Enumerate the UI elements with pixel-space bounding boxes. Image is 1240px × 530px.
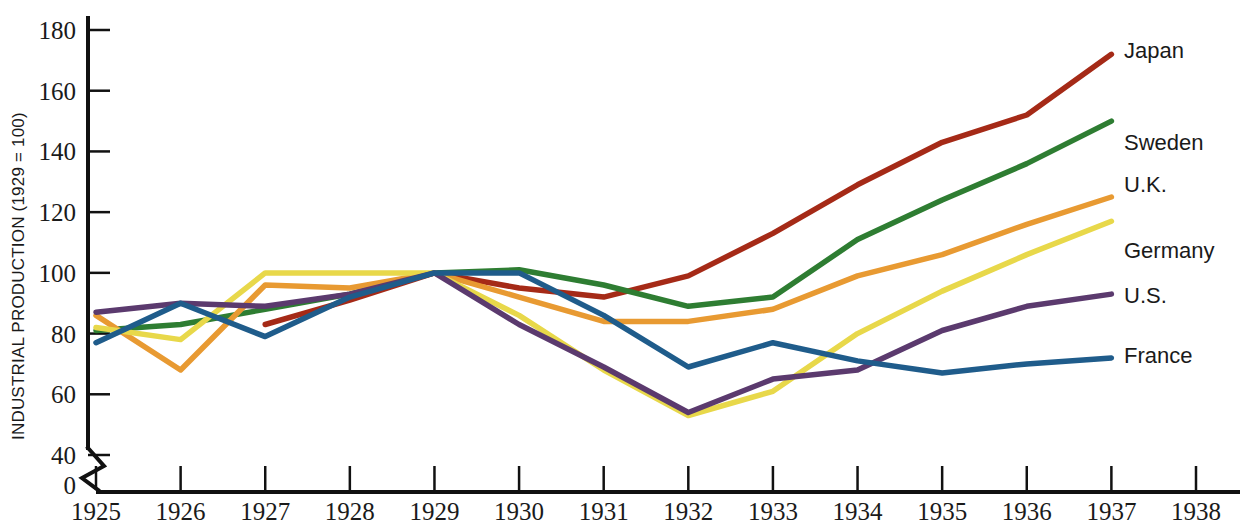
y-tick-label: 60 [51,381,76,408]
y-tick-label: 0 [64,472,77,499]
x-tick-label: 1928 [325,498,375,525]
y-tick-label: 80 [51,321,76,348]
series-label-france: France [1124,343,1192,368]
x-tick-label: 1933 [748,498,798,525]
x-tick-label: 1926 [156,498,206,525]
series-lines [96,54,1111,415]
y-tick-label: 120 [39,199,77,226]
x-tick-label: 1938 [1171,498,1221,525]
series-line-u-s [96,273,1111,413]
series-label-u-k: U.K. [1124,172,1167,197]
x-tick-label: 1934 [833,498,884,525]
x-tick-label: 1927 [240,498,290,525]
series-label-sweden: Sweden [1124,130,1204,155]
x-tick-label: 1925 [71,498,121,525]
series-label-germany: Germany [1124,238,1214,263]
y-axis-title-text: INDUSTRIAL PRODUCTION (1929 = 100) [9,112,28,440]
y-tick-label: 180 [39,17,77,44]
y-tick-label: 40 [51,442,76,469]
y-axis-title: INDUSTRIAL PRODUCTION (1929 = 100) [9,112,28,440]
chart-canvas: INDUSTRIAL PRODUCTION (1929 = 100) 04060… [0,0,1240,530]
series-labels: JapanSwedenU.K.GermanyU.S.France [1124,38,1214,368]
x-tick-label: 1935 [917,498,967,525]
line-chart: INDUSTRIAL PRODUCTION (1929 = 100) 04060… [0,0,1240,530]
y-tick-label: 100 [39,260,77,287]
x-tick-label: 1937 [1086,498,1136,525]
series-label-u-s: U.S. [1124,283,1167,308]
y-tick-label: 160 [39,78,77,105]
y-axis-ticks: 0406080100120140160180 [39,17,111,499]
x-axis-ticks: 1925192619271928192919301931193219331934… [71,466,1221,525]
x-tick-label: 1929 [409,498,459,525]
y-tick-label: 140 [39,138,77,165]
x-tick-label: 1936 [1002,498,1052,525]
series-label-japan: Japan [1124,38,1184,63]
x-tick-label: 1930 [494,498,544,525]
x-tick-label: 1931 [579,498,629,525]
x-tick-label: 1932 [663,498,713,525]
